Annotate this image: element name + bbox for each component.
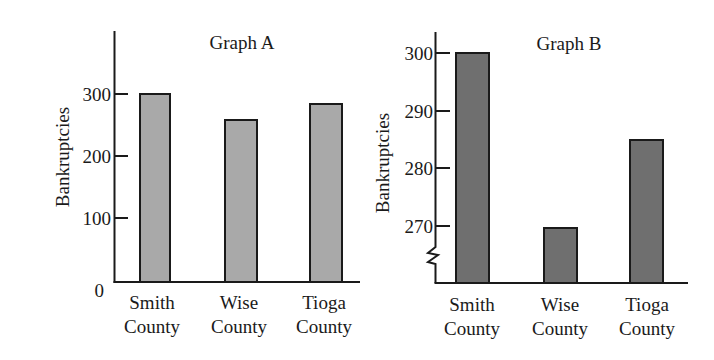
graph-b-title: Graph B bbox=[537, 33, 602, 54]
graph-b-y-axis-label: Bankruptcies bbox=[372, 113, 393, 213]
graph-a-bar-tioga-county bbox=[310, 104, 342, 282]
graph-b-bar-wise-county bbox=[544, 228, 577, 283]
graph-b-category-tioga-line2: County bbox=[619, 318, 675, 339]
graph-b: Graph B Bankruptcies 300 290 280 270 Smi… bbox=[372, 32, 688, 339]
graph-a-tick-label-100: 100 bbox=[83, 208, 112, 229]
chart-canvas: Graph A Bankruptcies 300 200 100 0 Smith… bbox=[0, 0, 714, 360]
graph-a-bar-wise-county bbox=[225, 120, 257, 282]
graph-a: Graph A Bankruptcies 300 200 100 0 Smith… bbox=[52, 31, 360, 337]
graph-b-category-wise-line2: County bbox=[532, 318, 588, 339]
graph-a-tick-label-300: 300 bbox=[83, 84, 112, 105]
graph-a-category-wise-line2: County bbox=[211, 316, 267, 337]
graph-b-tick-label-290: 290 bbox=[405, 101, 434, 122]
graph-a-category-tioga-line1: Tioga bbox=[302, 292, 346, 313]
graph-b-bar-smith-county bbox=[456, 53, 489, 283]
graph-b-category-tioga-line1: Tioga bbox=[625, 294, 669, 315]
graph-b-category-smith-line1: Smith bbox=[449, 294, 495, 315]
graph-a-tick-label-200: 200 bbox=[83, 146, 112, 167]
graph-b-tick-label-300: 300 bbox=[405, 43, 434, 64]
graph-a-category-wise-line1: Wise bbox=[220, 292, 258, 313]
graph-a-category-tioga-line2: County bbox=[296, 316, 352, 337]
graph-b-bar-tioga-county bbox=[630, 140, 663, 283]
graph-b-category-wise-line1: Wise bbox=[541, 294, 579, 315]
graph-a-title: Graph A bbox=[210, 32, 275, 53]
graph-a-y-axis-label: Bankruptcies bbox=[52, 107, 73, 207]
graph-b-tick-label-270: 270 bbox=[405, 216, 434, 237]
graph-b-tick-label-280: 280 bbox=[405, 158, 434, 179]
graph-a-category-smith-line2: County bbox=[124, 316, 180, 337]
graph-a-tick-label-0: 0 bbox=[95, 280, 105, 301]
graph-a-category-smith-line1: Smith bbox=[129, 292, 175, 313]
graph-a-bar-smith-county bbox=[140, 94, 170, 282]
graph-b-category-smith-line2: County bbox=[444, 318, 500, 339]
